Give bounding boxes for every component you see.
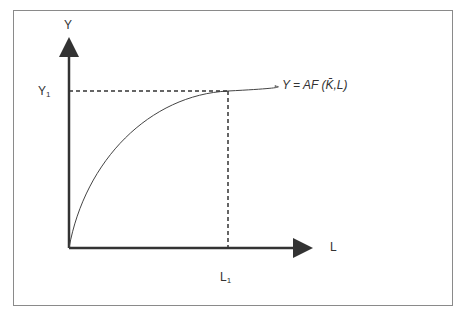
- l1-text: L: [220, 270, 227, 284]
- l1-label: L1: [220, 270, 231, 285]
- x-axis-label: L: [330, 240, 337, 254]
- production-curve: [69, 86, 278, 248]
- curve-equation: Y = AF (K̄,L): [282, 78, 347, 92]
- production-function-diagram: [0, 0, 464, 316]
- y1-subscript: 1: [46, 90, 50, 99]
- y1-label: Y1: [38, 84, 50, 99]
- y1-text: Y: [38, 84, 46, 98]
- y-axis-label: Y: [64, 18, 72, 32]
- l1-subscript: 1: [227, 276, 231, 285]
